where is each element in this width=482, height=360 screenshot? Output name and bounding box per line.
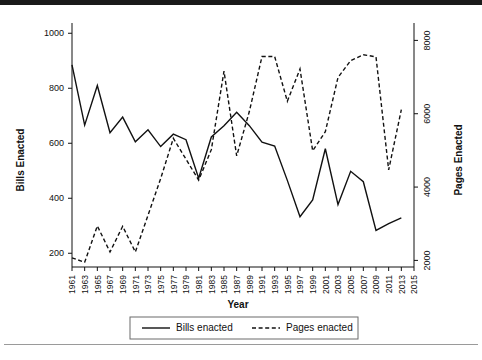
figure-container: 2004006008001000 2000400060008000 196119… bbox=[0, 5, 482, 344]
y-axis-right-title: Pages Enacted bbox=[453, 124, 464, 195]
x-axis-tick-label: 2011 bbox=[384, 275, 394, 294]
x-axis-tick-label: 2001 bbox=[321, 275, 331, 294]
x-axis-tick-label: 1995 bbox=[283, 275, 293, 294]
x-axis-tick-label: 1983 bbox=[207, 275, 217, 294]
x-axis-tick-label: 2009 bbox=[371, 275, 381, 294]
y-axis-right-tick-label: 8000 bbox=[422, 30, 432, 50]
x-axis-tick-label: 1967 bbox=[105, 275, 115, 294]
x-axis-tick-label: 1971 bbox=[131, 275, 141, 294]
y-axis-left-tick-label: 600 bbox=[49, 138, 64, 148]
x-axis-tick-label: 2003 bbox=[333, 275, 343, 294]
x-axis-tick-label: 1991 bbox=[257, 275, 267, 294]
x-axis-tick-label: 2013 bbox=[397, 275, 407, 294]
x-axis-tick-label: 1975 bbox=[156, 275, 166, 294]
series-group bbox=[72, 55, 401, 263]
x-axis-tick-label: 1997 bbox=[295, 275, 305, 294]
x-axis-tick-label: 2005 bbox=[346, 275, 356, 294]
line-chart: 2004006008001000 2000400060008000 196119… bbox=[0, 5, 482, 344]
chart-page: 2004006008001000 2000400060008000 196119… bbox=[0, 0, 482, 360]
legend-label-1: Bills enacted bbox=[176, 322, 233, 333]
y-axis-left-tick-label: 400 bbox=[49, 193, 64, 203]
x-axis-tick-label: 2007 bbox=[359, 275, 369, 294]
y-axis-left-tick-label: 1000 bbox=[44, 28, 64, 38]
x-axis-tick-label: 1989 bbox=[245, 275, 255, 294]
x-axis-tick-label: 1999 bbox=[308, 275, 318, 294]
y-axis-right-tick-label: 2000 bbox=[422, 250, 432, 270]
y-axis-right-tick-label: 4000 bbox=[422, 177, 432, 197]
chart-legend: Bills enactedPages enacted bbox=[130, 317, 358, 339]
x-axis: 1961196319651967196919711973197519771979… bbox=[67, 267, 419, 294]
x-axis-tick-label: 1977 bbox=[169, 275, 179, 294]
x-axis-tick-label: 1985 bbox=[219, 275, 229, 294]
x-axis-tick-label: 1961 bbox=[67, 275, 77, 294]
x-axis-tick-label: 1965 bbox=[93, 275, 103, 294]
y-axis-left-title: Bills Enacted bbox=[15, 129, 26, 192]
x-axis-tick-label: 1963 bbox=[80, 275, 90, 294]
x-axis-title: Year bbox=[227, 299, 248, 310]
series-line-1 bbox=[72, 65, 401, 231]
y-axis-left-tick-label: 200 bbox=[49, 248, 64, 258]
bottom-divider bbox=[4, 344, 478, 345]
y-axis-left-tick-label: 800 bbox=[49, 83, 64, 93]
x-axis-tick-label: 1981 bbox=[194, 275, 204, 294]
legend-label-2: Pages enacted bbox=[286, 322, 353, 333]
x-axis-tick-label: 1979 bbox=[181, 275, 191, 294]
y-axis-right-tick-label: 6000 bbox=[422, 104, 432, 124]
x-axis-tick-label: 2015 bbox=[409, 275, 419, 294]
y-axis-right: 2000400060008000 bbox=[414, 23, 432, 270]
y-axis-left: 2004006008001000 bbox=[44, 23, 72, 267]
x-axis-tick-label: 1987 bbox=[232, 275, 242, 294]
series-line-2 bbox=[72, 55, 401, 263]
x-axis-tick-label: 1973 bbox=[143, 275, 153, 294]
x-axis-tick-label: 1993 bbox=[270, 275, 280, 294]
x-axis-tick-label: 1969 bbox=[118, 275, 128, 294]
